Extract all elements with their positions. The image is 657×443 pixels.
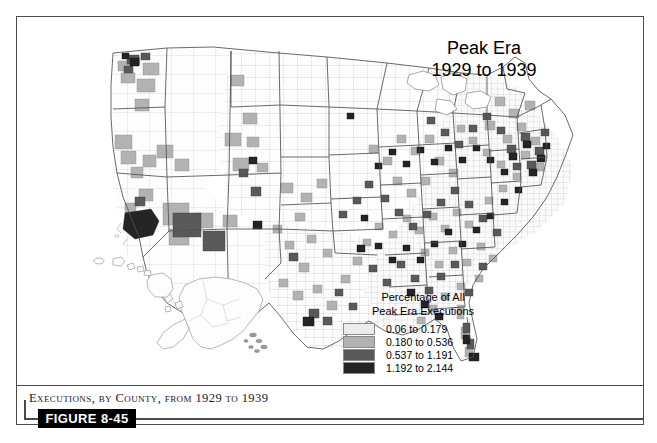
legend-row: 0.180 to 0.536	[343, 336, 533, 349]
legend-row: 1.192 to 2.144	[343, 362, 533, 375]
figure-number-badge: FIGURE 8-45	[38, 409, 136, 428]
figure-number-rule	[136, 418, 644, 420]
legend-swatch-class3	[343, 349, 375, 361]
legend-swatch-class1	[343, 323, 375, 335]
us-county-map-svg	[17, 17, 643, 379]
legend-label-class4: 1.192 to 2.144	[386, 362, 453, 374]
figure-number-left-tick	[24, 418, 38, 420]
legend-swatch-class4	[343, 362, 375, 374]
choropleth-map: Peak Era 1929 to 1939 Percentage of All …	[17, 17, 643, 379]
legend-row: 0.06 to 0.179	[343, 323, 533, 336]
legend-label-class1: 0.06 to 0.179	[386, 323, 447, 335]
caption-divider	[17, 385, 643, 386]
legend-label-class3: 0.537 to 1.191	[386, 349, 453, 361]
map-aleutian-islands	[244, 333, 267, 353]
map-legend: Percentage of All Peak Era Executions 0.…	[343, 291, 533, 375]
legend-swatch-class2	[343, 336, 375, 348]
legend-title-line2: Peak Era Executions	[343, 305, 503, 319]
legend-row: 0.537 to 1.191	[343, 349, 533, 362]
legend-title-line1: Percentage of All	[343, 291, 503, 305]
figure-frame: Peak Era 1929 to 1939 Percentage of All …	[16, 16, 644, 425]
figure-caption: Executions, by County, from 1929 to 1939	[29, 391, 268, 406]
legend-label-class2: 0.180 to 0.536	[386, 336, 453, 348]
legend-title: Percentage of All Peak Era Executions	[343, 291, 503, 319]
figure-number-left-stub	[24, 400, 26, 419]
